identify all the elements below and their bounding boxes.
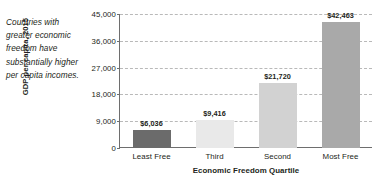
x-axis-title: Economic Freedom Quartile [120,166,372,175]
chart-figure: Countries with greater economic freedom … [0,0,376,179]
y-axis-tick-label: 27,000 [92,63,116,72]
y-axis-tick-label: 36,000 [92,36,116,45]
x-axis-tick-label: Second [264,152,291,161]
bar-value-label: $42,463 [327,11,354,20]
y-axis-tick-label: 45,000 [92,10,116,19]
x-axis-tick-label: Third [205,152,223,161]
bar: $42,463 [322,22,360,148]
bar-group: $21,720Second [246,14,309,148]
bar-value-label: $21,720 [264,72,291,81]
y-axis-title: GDP per capita, 2015 [21,0,30,122]
bar-value-label: $6,036 [140,119,163,128]
bar: $6,036 [133,130,171,148]
bar-group: $6,036Least Free [120,14,183,148]
bar-series: $6,036Least Free$9,416Third$21,720Second… [120,14,372,148]
bar-group: $9,416Third [183,14,246,148]
bar-value-label: $9,416 [203,109,226,118]
y-axis-tick-mark [117,148,120,149]
chart-caption: Countries with greater economic freedom … [6,16,88,82]
x-axis-tick-label: Most Free [323,152,359,161]
bar: $21,720 [259,83,297,148]
y-axis-tick-label: 18,000 [92,90,116,99]
y-axis-tick-label: 9,000 [96,117,116,126]
bar: $9,416 [196,120,234,148]
plot-area: 09,00018,00027,00036,00045,000 $6,036Lea… [120,14,372,148]
x-axis-tick-label: Least Free [132,152,170,161]
y-axis-tick-label: 0 [112,144,116,153]
bar-group: $42,463Most Free [309,14,372,148]
